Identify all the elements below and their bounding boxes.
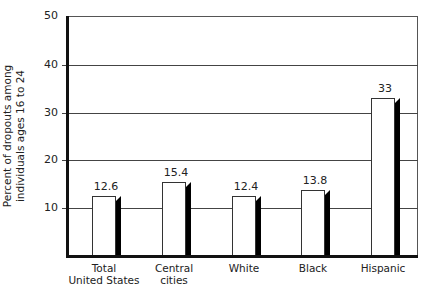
bar-hispanic bbox=[371, 98, 395, 256]
bar-total-united-states bbox=[92, 196, 116, 256]
x-tick-hispanic: Hispanic bbox=[343, 262, 423, 274]
bar-shadow-cap-central-cities bbox=[186, 182, 191, 187]
gridline-20 bbox=[62, 160, 418, 161]
bar-shadow-cap-white bbox=[256, 196, 261, 201]
bar-shadow-black bbox=[325, 195, 330, 256]
bar-value-label-total-united-states: 12.6 bbox=[86, 181, 126, 193]
y-tick-40: 40 bbox=[30, 59, 58, 71]
gridline-30 bbox=[62, 113, 418, 114]
bar-shadow-cap-hispanic bbox=[395, 98, 400, 103]
x-tick-black: Black bbox=[273, 262, 353, 274]
bar-value-label-white: 12.4 bbox=[226, 181, 266, 193]
bar-shadow-cap-black bbox=[325, 190, 330, 195]
bar-central-cities bbox=[162, 182, 186, 256]
y-axis-label-line-2: individuals ages 16 to 24 bbox=[14, 65, 27, 208]
plot-frame-right bbox=[417, 16, 418, 256]
bar-value-label-central-cities: 15.4 bbox=[156, 167, 196, 179]
y-tick-10: 10 bbox=[30, 202, 58, 214]
y-tick-50: 50 bbox=[30, 10, 58, 22]
x-tick-white: White bbox=[204, 262, 284, 274]
gridline-40 bbox=[62, 65, 418, 66]
plot-frame-top bbox=[67, 16, 418, 17]
bar-shadow-cap-total-united-states bbox=[116, 196, 121, 201]
bar-value-label-hispanic: 33 bbox=[365, 83, 405, 95]
x-axis bbox=[66, 255, 418, 258]
bar-black bbox=[301, 190, 325, 256]
bar-value-label-black: 13.8 bbox=[295, 175, 335, 187]
bar-shadow-central-cities bbox=[186, 187, 191, 256]
x-tick-total-united-states: Total United States bbox=[64, 262, 144, 286]
y-tick-30: 30 bbox=[30, 107, 58, 119]
bar-white bbox=[232, 196, 256, 256]
bar-shadow-total-united-states bbox=[116, 201, 121, 256]
bar-chart: Percent of dropouts among individuals ag… bbox=[0, 0, 431, 295]
bar-shadow-hispanic bbox=[395, 103, 400, 256]
y-axis bbox=[66, 16, 69, 258]
y-axis-label-line-1: Percent of dropouts among bbox=[1, 65, 14, 208]
y-tick-20: 20 bbox=[30, 154, 58, 166]
x-tick-central-cities: Central cities bbox=[134, 262, 214, 286]
bar-shadow-white bbox=[256, 201, 261, 256]
